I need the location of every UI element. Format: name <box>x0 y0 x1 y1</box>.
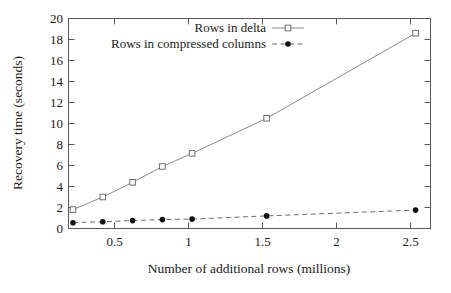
series-rows-in-compressed-columns <box>70 207 418 225</box>
x-tick-label: 0.5 <box>106 234 122 249</box>
y-tick-label: 10 <box>50 116 63 131</box>
y-tick-label: 18 <box>50 32 63 47</box>
y-tick-labels: 0 2 4 6 8 10 12 14 16 18 20 <box>50 11 64 236</box>
x-tick-label: 1.5 <box>254 234 270 249</box>
y-tick-label: 12 <box>50 95 63 110</box>
y-tick-label: 2 <box>57 200 64 215</box>
recovery-time-line-chart: 0 2 4 6 8 10 12 14 16 18 20 0.5 1 1.5 2 … <box>0 0 451 293</box>
x-tick-labels: 0.5 1 1.5 2 2.5 <box>106 234 418 249</box>
y-tick-label: 8 <box>57 137 64 152</box>
y-tick-label: 4 <box>57 179 64 194</box>
delta-markers <box>70 30 418 212</box>
y-tick-label: 0 <box>57 221 64 236</box>
y-tick-label: 20 <box>50 11 63 26</box>
legend-swatch-delta <box>272 25 304 31</box>
legend-swatch-columns <box>272 41 304 47</box>
x-tick-label: 2 <box>333 234 340 249</box>
x-axis-title: Number of additional rows (millions) <box>148 261 350 276</box>
chart-figure: 0 2 4 6 8 10 12 14 16 18 20 0.5 1 1.5 2 … <box>0 0 451 293</box>
y-tick-label: 6 <box>57 158 64 173</box>
x-tick-label: 1 <box>185 234 192 249</box>
y-tick-label: 16 <box>50 53 64 68</box>
legend-label-columns: Rows in compressed columns <box>111 36 266 51</box>
chart-legend: Rows in delta Rows in compressed columns <box>111 20 304 51</box>
legend-label-delta: Rows in delta <box>195 20 267 35</box>
delta-line <box>73 33 416 209</box>
columns-line <box>73 210 416 223</box>
y-axis-title: Recovery time (seconds) <box>10 56 25 190</box>
x-tick-label: 2.5 <box>402 234 418 249</box>
y-tick-label: 14 <box>50 74 64 89</box>
series-rows-in-delta <box>70 30 418 212</box>
